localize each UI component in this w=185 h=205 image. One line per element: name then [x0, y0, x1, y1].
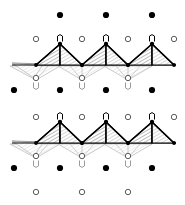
open-circle-atom — [171, 114, 176, 119]
open-circle-atom — [171, 36, 176, 41]
filled-circle-atom — [103, 165, 109, 171]
filled-circle-atom — [103, 87, 109, 93]
crystal-structure-svg — [0, 0, 185, 205]
open-circle-atom — [33, 153, 38, 158]
open-circle-atom — [125, 114, 130, 119]
filled-circle-atom — [11, 165, 17, 171]
apex-cap-marker — [80, 83, 85, 90]
tetrahedron — [80, 42, 130, 67]
tetrahedron — [80, 120, 130, 145]
tetra-apex-node — [150, 120, 154, 124]
apex-cap-marker — [104, 113, 109, 120]
apex-cap-marker — [150, 35, 155, 42]
filled-circle-atom — [103, 12, 109, 18]
row-apex-lower-1 — [58, 113, 155, 120]
row-open-lower-1 — [33, 114, 176, 119]
tetrahedron — [126, 42, 176, 67]
atom-layer — [11, 12, 177, 195]
open-circle-atom — [33, 114, 38, 119]
tetra-base-node — [34, 141, 38, 145]
open-circle-atom — [79, 153, 84, 158]
apex-cap-marker — [104, 35, 109, 42]
filled-circle-atom — [57, 12, 63, 18]
filled-circle-atom — [149, 165, 155, 171]
row-open-upper-1 — [33, 36, 176, 41]
filled-circle-atom — [57, 165, 63, 171]
row-filled-mid — [11, 87, 155, 93]
filled-circle-atom — [57, 87, 63, 93]
row-open-bottom — [33, 189, 130, 194]
tetra-base-node — [34, 63, 38, 67]
open-circle-atom — [33, 75, 38, 80]
open-circle-atom — [33, 36, 38, 41]
diagram-canvas: Chain of corner-sharing tetrahedra in pr… — [0, 0, 185, 205]
tetra-base-node — [80, 63, 84, 67]
open-circle-atom — [125, 189, 130, 194]
tetra-apex-node — [58, 42, 62, 46]
tetra-base-node — [126, 63, 130, 67]
row-apex-upper-1 — [58, 35, 155, 42]
apex-cap-marker — [34, 161, 39, 168]
tetra-base-node — [80, 141, 84, 145]
row-open-mid-upper — [33, 75, 130, 80]
open-circle-atom — [125, 36, 130, 41]
tetra-apex-node — [58, 120, 62, 124]
row-filled-bottom — [11, 165, 155, 171]
filled-circle-atom — [11, 87, 17, 93]
open-circle-atom — [125, 153, 130, 158]
tetrahedron — [34, 120, 84, 145]
apex-cap-marker — [126, 161, 131, 168]
tetrahedron — [126, 120, 176, 145]
apex-cap-marker — [58, 35, 63, 42]
tetra-apex-node — [150, 42, 154, 46]
row-apex-down-upper — [34, 83, 131, 90]
apex-cap-marker — [126, 83, 131, 90]
tetra-apex-node — [104, 42, 108, 46]
tetra-base-node — [126, 141, 130, 145]
filled-circle-atom — [149, 87, 155, 93]
open-circle-atom — [125, 75, 130, 80]
row-apex-down-lower — [34, 161, 131, 168]
tetra-apex-node — [104, 120, 108, 124]
open-circle-atom — [79, 114, 84, 119]
tetrahedron — [34, 42, 84, 67]
open-circle-atom — [33, 189, 38, 194]
open-circle-atom — [79, 36, 84, 41]
tetrahedra-layer — [12, 42, 176, 145]
row-filled-top — [57, 12, 155, 18]
apex-cap-marker — [34, 83, 39, 90]
apex-cap-marker — [150, 113, 155, 120]
apex-cap-marker — [80, 161, 85, 168]
open-circle-atom — [79, 75, 84, 80]
filled-circle-atom — [149, 12, 155, 18]
row-open-mid-lower — [33, 153, 130, 158]
apex-cap-marker — [58, 113, 63, 120]
open-circle-atom — [79, 189, 84, 194]
